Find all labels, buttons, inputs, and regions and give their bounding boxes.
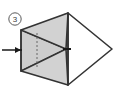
diagram-figure: 3 xyxy=(0,0,124,95)
step-badge-label: 3 xyxy=(13,15,18,24)
step-badge: 3 xyxy=(9,13,21,25)
diagram-canvas: 3 xyxy=(0,0,124,95)
